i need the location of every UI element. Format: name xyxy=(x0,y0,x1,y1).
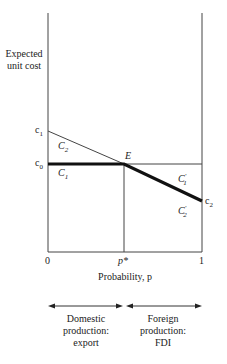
y-axis-label-line2: unit cost xyxy=(0,60,48,72)
point-e-label: E xyxy=(125,150,131,162)
region-label-c2: C2 xyxy=(58,140,68,156)
y-axis-label: Expected unit cost xyxy=(0,48,48,72)
region-label-c1: C1 xyxy=(58,167,68,183)
x-tick-1: 1 xyxy=(199,255,204,267)
export-range-arrow xyxy=(48,304,123,309)
region-label-c2-prime: C′2 xyxy=(178,202,187,221)
region-label-c1-prime: C′1 xyxy=(178,170,187,189)
c0-tick-label: c0 xyxy=(35,157,43,173)
c1-tick-label: c1 xyxy=(35,124,43,140)
y-axis-label-line1: Expected xyxy=(0,48,48,60)
x-tick-0: 0 xyxy=(45,255,50,267)
regime-export-label: Domestic production: export xyxy=(50,313,122,349)
x-tick-pstar: p* xyxy=(118,255,128,267)
fdi-range-arrow xyxy=(126,304,202,309)
c2-tick-label: c2 xyxy=(205,195,213,211)
x-axis-label: Probability, p xyxy=(70,271,180,283)
regime-fdi-label: Foreign production: FDI xyxy=(127,313,199,349)
